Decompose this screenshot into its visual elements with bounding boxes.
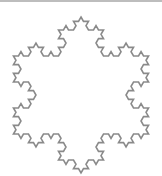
figure-canvas [0,0,162,176]
koch-snowflake [0,0,162,176]
snowflake-outline [13,17,148,173]
